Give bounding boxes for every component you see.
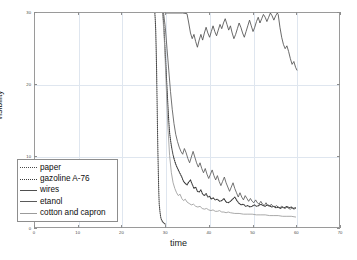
x-axis-tick-label: 40 (207, 230, 212, 235)
y-axis-tick-right (337, 156, 340, 157)
y-axis-tick (34, 12, 37, 13)
legend-label: wires (40, 186, 59, 194)
x-axis-tick (121, 225, 122, 228)
legend-item-paper[interactable]: paper (18, 162, 117, 173)
legend-item-wires[interactable]: wires (18, 185, 117, 196)
y-axis-tick-right (337, 228, 340, 229)
legend-item-gazoline-a-76[interactable]: gazoline A-76 (18, 173, 117, 184)
y-axis-tick-label: 0 (20, 226, 31, 231)
y-axis-tick (34, 156, 37, 157)
series-line-etanol (164, 13, 296, 209)
chart-legend: papergazoline A-76wiresetanolcotton and … (17, 159, 118, 222)
y-axis-tick (34, 84, 37, 85)
x-axis-tick-top (121, 12, 122, 15)
legend-line-sample-icon (20, 187, 37, 194)
legend-line-sample-icon (20, 164, 37, 171)
legend-label: gazoline A-76 (40, 175, 90, 183)
y-axis-tick-label: 20 (20, 82, 31, 87)
x-axis-tick-label: 10 (75, 230, 80, 235)
x-axis-tick (340, 225, 341, 228)
x-axis-tick-top (209, 12, 210, 15)
x-axis-tick-label: 30 (163, 230, 168, 235)
x-axis-tick-label: 20 (119, 230, 124, 235)
x-axis-tick-top (78, 12, 79, 15)
x-axis-tick (296, 225, 297, 228)
legend-label: paper (40, 164, 61, 172)
legend-line-sample-icon (20, 210, 37, 217)
legend-label: etanol (40, 198, 62, 206)
y-axis-tick-right (337, 84, 340, 85)
x-axis-tick (209, 225, 210, 228)
x-axis-tick-label: 70 (338, 230, 343, 235)
y-axis-tick-right (337, 12, 340, 13)
x-axis-tick (165, 225, 166, 228)
x-axis-tick-top (165, 12, 166, 15)
series-line-cotton-and-capron (163, 13, 296, 217)
legend-label: cotton and capron (40, 209, 106, 217)
x-axis-tick-top (340, 12, 341, 15)
x-axis-tick-top (253, 12, 254, 15)
legend-line-sample-icon (20, 198, 37, 205)
chart-figure: 0102030405060700102030 time visibility p… (0, 0, 357, 260)
legend-item-cotton-and-capron[interactable]: cotton and capron (18, 208, 117, 219)
y-axis-tick (34, 228, 37, 229)
series-line-gazoline-a-76 (163, 13, 296, 208)
x-axis-tick-label: 50 (250, 230, 255, 235)
x-axis-tick (253, 225, 254, 228)
x-axis-tick-label: 0 (33, 230, 35, 235)
legend-line-sample-icon (20, 176, 37, 183)
x-axis-tick-top (296, 12, 297, 15)
legend-item-etanol[interactable]: etanol (18, 196, 117, 207)
y-axis-tick-label: 10 (20, 154, 31, 159)
x-axis-tick-label: 60 (294, 230, 299, 235)
y-axis-tick-label: 30 (20, 10, 31, 15)
x-axis-tick (78, 225, 79, 228)
y-axis-label: visibility (0, 90, 4, 120)
series-line-paper (155, 13, 165, 224)
series-line-wires (165, 13, 297, 70)
x-axis-label: time (0, 238, 357, 248)
